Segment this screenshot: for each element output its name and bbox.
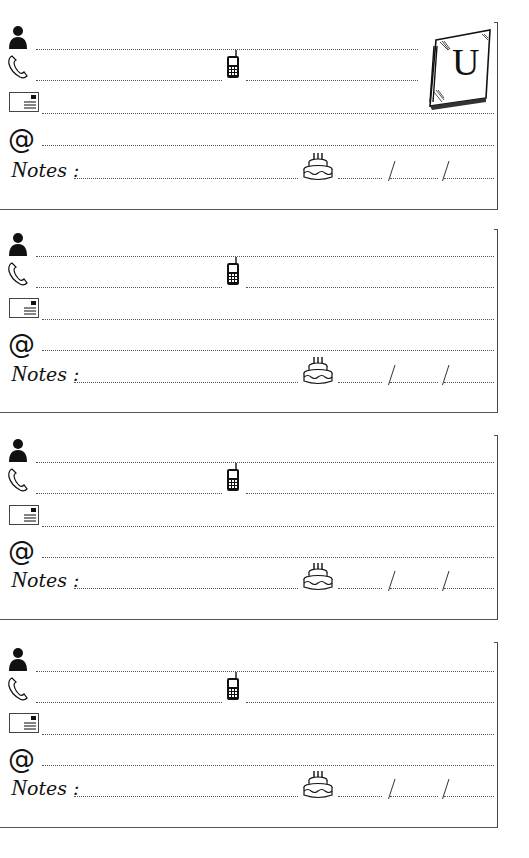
card-body: @ Notes :: [0, 431, 494, 616]
notes-field[interactable]: [74, 382, 298, 383]
email-field[interactable]: [42, 145, 494, 146]
mobile-phone-icon: [226, 50, 240, 84]
birthday-year-field[interactable]: [444, 382, 494, 383]
mobile-field[interactable]: [246, 287, 494, 288]
birthday-day-field[interactable]: [338, 796, 382, 797]
email-row: @: [8, 742, 494, 772]
birthday-month-field[interactable]: [390, 796, 438, 797]
notes-row: Notes :: [8, 773, 494, 803]
name-row: [8, 233, 494, 263]
birthday-year-field[interactable]: [444, 588, 494, 589]
contact-card-1: U @ No: [0, 18, 494, 206]
notes-row: Notes :: [8, 565, 494, 595]
mobile-field[interactable]: [246, 702, 494, 703]
phone-field[interactable]: [36, 702, 222, 703]
phone-row: [8, 57, 494, 87]
mobile-phone-icon: [226, 463, 240, 497]
notes-row: Notes :: [8, 359, 494, 389]
phone-handset-icon: [8, 467, 30, 497]
birthday-month-field[interactable]: [390, 178, 438, 179]
envelope-icon: [9, 713, 39, 737]
email-field[interactable]: [42, 557, 494, 558]
notes-label: Notes :: [11, 774, 80, 801]
email-field[interactable]: [42, 765, 494, 766]
email-row: @: [8, 122, 494, 152]
envelope-icon: [9, 298, 39, 322]
phone-row: [8, 264, 494, 294]
email-row: @: [8, 534, 494, 564]
name-field[interactable]: [36, 462, 494, 463]
phone-field[interactable]: [36, 493, 222, 494]
phone-field[interactable]: [36, 287, 222, 288]
notes-label: Notes :: [11, 156, 80, 183]
contact-card-3: @ Notes :: [0, 431, 494, 616]
at-sign-icon: @: [8, 537, 35, 564]
phone-handset-icon: [8, 54, 30, 84]
birthday-day-field[interactable]: [338, 382, 382, 383]
birthday-cake-icon: [302, 355, 334, 389]
address-field[interactable]: [42, 526, 494, 527]
address-row: [8, 503, 494, 533]
name-row: [8, 648, 494, 678]
notes-row: Notes :: [8, 155, 494, 185]
birthday-day-field[interactable]: [338, 588, 382, 589]
phone-handset-icon: [8, 261, 30, 291]
card-body: @ Notes :: [0, 225, 494, 409]
notes-field[interactable]: [74, 796, 298, 797]
contact-card-4: @ Notes :: [0, 638, 494, 824]
contact-card-2: @ Notes :: [0, 225, 494, 409]
at-sign-icon: @: [8, 745, 35, 772]
name-row: [8, 26, 494, 56]
mobile-field[interactable]: [246, 493, 494, 494]
email-row: @: [8, 327, 494, 357]
envelope-icon: [9, 505, 39, 529]
birthday-cake-icon: [302, 151, 334, 185]
mobile-field[interactable]: [246, 80, 418, 81]
birthday-year-field[interactable]: [444, 796, 494, 797]
card-body: U @ No: [0, 18, 494, 206]
phone-row: [8, 470, 494, 500]
name-field[interactable]: [36, 671, 494, 672]
at-sign-icon: @: [8, 125, 35, 152]
name-field[interactable]: [36, 256, 494, 257]
person-icon: [8, 232, 28, 260]
address-field[interactable]: [42, 113, 494, 114]
birthday-month-field[interactable]: [390, 382, 438, 383]
address-row: [8, 90, 494, 120]
mobile-phone-icon: [226, 257, 240, 291]
phone-row: [8, 679, 494, 709]
card-body: @ Notes :: [0, 638, 494, 824]
email-field[interactable]: [42, 350, 494, 351]
address-row: [8, 711, 494, 741]
mobile-phone-icon: [226, 672, 240, 706]
address-field[interactable]: [42, 319, 494, 320]
notes-label: Notes :: [11, 360, 80, 387]
birthday-cake-icon: [302, 769, 334, 803]
notes-label: Notes :: [11, 566, 80, 593]
birthday-day-field[interactable]: [338, 178, 382, 179]
person-icon: [8, 647, 28, 675]
address-row: [8, 296, 494, 326]
address-field[interactable]: [42, 734, 494, 735]
phone-handset-icon: [8, 676, 30, 706]
envelope-icon: [9, 92, 39, 116]
notes-field[interactable]: [74, 588, 298, 589]
birthday-cake-icon: [302, 561, 334, 595]
person-icon: [8, 438, 28, 466]
birthday-year-field[interactable]: [444, 178, 494, 179]
notes-field[interactable]: [74, 178, 298, 179]
at-sign-icon: @: [8, 330, 35, 357]
name-row: [8, 439, 494, 469]
phone-field[interactable]: [36, 80, 222, 81]
person-icon: [8, 25, 28, 53]
birthday-month-field[interactable]: [390, 588, 438, 589]
